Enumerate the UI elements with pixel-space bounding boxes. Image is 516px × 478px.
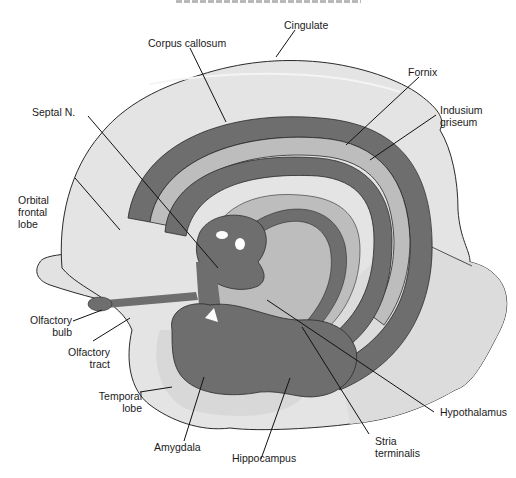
label-orbital-frontal-lobe: Orbital frontal lobe bbox=[18, 194, 49, 230]
label-temporal-lobe: Temporal lobe bbox=[96, 390, 142, 414]
label-fornix: Fornix bbox=[408, 66, 437, 78]
label-hypothalamus: Hypothalamus bbox=[440, 406, 507, 418]
label-olfactory-bulb: Olfactory bulb bbox=[30, 314, 72, 338]
label-cingulate: Cingulate bbox=[284, 19, 328, 31]
label-hippocampus: Hippocampus bbox=[232, 452, 296, 464]
brain-illustration bbox=[0, 0, 516, 478]
label-corpus-callosum: Corpus callosum bbox=[148, 37, 226, 49]
label-indusium-griseum: Indusium griseum bbox=[440, 104, 483, 128]
limbic-system-diagram: Cingulate Corpus callosum Fornix Indusiu… bbox=[0, 0, 516, 478]
label-septal-n: Septal N. bbox=[32, 106, 75, 118]
label-olfactory-tract: Olfactory tract bbox=[62, 346, 110, 370]
label-amygdala: Amygdala bbox=[154, 441, 201, 453]
label-stria-terminalis: Stria terminalis bbox=[375, 435, 420, 459]
olfactory-bulb bbox=[88, 297, 112, 311]
